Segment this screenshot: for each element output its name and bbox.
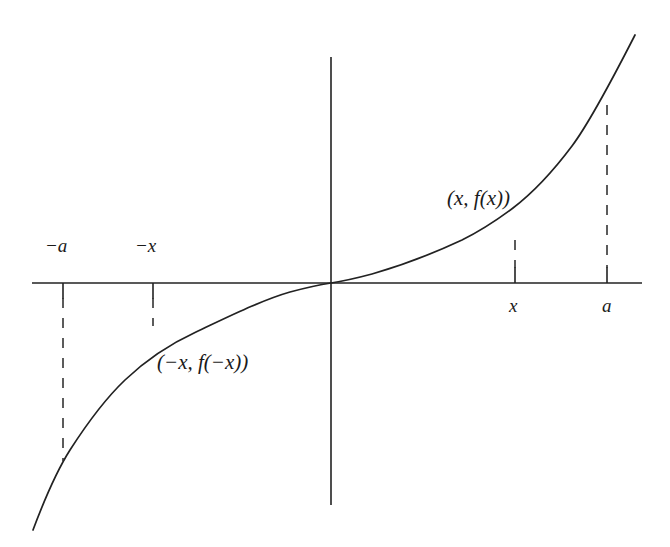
tick-label-neg-a: −a [45, 236, 67, 255]
tick-label-pos-x: x [509, 296, 517, 315]
tick-label-pos-a: a [602, 296, 612, 315]
point-label-negative: (−x, f(−x)) [157, 352, 248, 373]
tick-label-neg-x: −x [135, 236, 156, 255]
odd-function-graph [0, 0, 670, 547]
point-label-positive: (x, f(x)) [447, 188, 510, 209]
figure-container: −a −x x a (x, f(x)) (−x, f(−x)) [0, 0, 670, 547]
